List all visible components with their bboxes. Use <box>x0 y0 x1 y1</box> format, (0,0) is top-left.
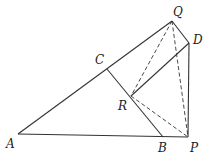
label-R: R <box>117 99 127 113</box>
label-B: B <box>157 141 167 155</box>
label-D: D <box>192 33 203 47</box>
label-A: A <box>5 137 15 151</box>
segment-RD <box>131 43 189 96</box>
label-P: P <box>189 141 199 155</box>
dashed-lines <box>131 21 188 137</box>
geometry-diagram: A B P C Q D R <box>0 0 211 155</box>
segment-AQ <box>18 21 172 134</box>
segment-RP <box>131 96 188 137</box>
segment-DP <box>188 43 189 137</box>
segment-QR <box>131 21 172 96</box>
label-Q: Q <box>173 5 183 19</box>
segment-QD <box>172 21 189 43</box>
segment-CB <box>107 69 163 137</box>
label-C: C <box>95 53 104 67</box>
